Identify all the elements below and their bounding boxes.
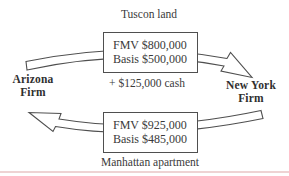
top-box-basis: Basis $500,000 bbox=[113, 52, 197, 66]
bottom-box-basis: Basis $485,000 bbox=[113, 132, 197, 146]
top-value-box: FMV $800,000 Basis $500,000 bbox=[103, 32, 198, 73]
cash-label: + $125,000 cash bbox=[109, 76, 185, 90]
bottom-box-fmv: FMV $925,000 bbox=[113, 118, 197, 132]
bottom-value-box: FMV $925,000 Basis $485,000 bbox=[103, 112, 198, 153]
exchange-diagram: Tuscon land FMV $800,000 Basis $500,000 … bbox=[0, 0, 289, 176]
top-box-fmv: FMV $800,000 bbox=[113, 38, 197, 52]
